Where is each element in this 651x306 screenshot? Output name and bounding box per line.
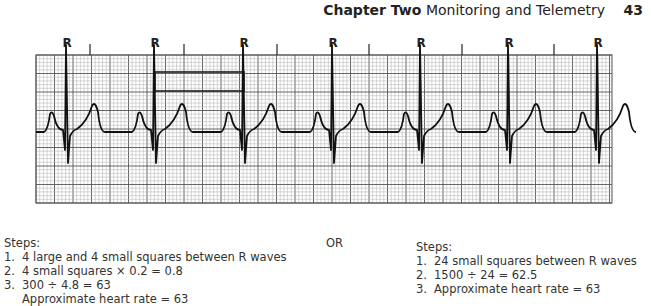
step-number: 2.	[416, 268, 427, 282]
steps-right-list: 1.24 small squares between R waves 2.150…	[416, 254, 637, 296]
steps-right-heading: Steps:	[416, 240, 637, 254]
steps-left-heading: Steps:	[4, 236, 287, 250]
step-text: 4 large and 4 small squares between R wa…	[22, 250, 287, 264]
step-number: 1.	[4, 250, 15, 264]
or-separator: OR	[326, 236, 343, 250]
r-wave-label: R	[416, 36, 425, 50]
step-item: 3.Approximate heart rate = 63	[416, 282, 637, 296]
step-number: 1.	[416, 254, 427, 268]
step-number: 3.	[4, 278, 15, 292]
r-wave-label: R	[593, 36, 602, 50]
step-number: 3.	[416, 282, 427, 296]
step-number: 2.	[4, 264, 15, 278]
step-text: 1500 ÷ 24 = 62.5	[434, 268, 537, 282]
r-wave-label: R	[62, 36, 71, 50]
step-text: 4 small squares × 0.2 = 0.8	[22, 264, 183, 278]
r-wave-label: R	[328, 36, 337, 50]
r-wave-label: R	[150, 36, 159, 50]
steps-right: Steps: 1.24 small squares between R wave…	[416, 240, 637, 296]
ecg-trace	[36, 45, 636, 163]
step-text: 24 small squares between R waves	[434, 254, 637, 268]
step-item: 3.300 ÷ 4.8 = 63	[4, 278, 287, 292]
steps-left: Steps: 1.4 large and 4 small squares bet…	[4, 236, 287, 306]
step-item: 1.24 small squares between R waves	[416, 254, 637, 268]
step-item: 2.1500 ÷ 24 = 62.5	[416, 268, 637, 282]
steps-left-result: Approximate heart rate = 63	[4, 292, 287, 306]
step-text: 300 ÷ 4.8 = 63	[22, 278, 111, 292]
step-item: 1.4 large and 4 small squares between R …	[4, 250, 287, 264]
steps-left-list: 1.4 large and 4 small squares between R …	[4, 250, 287, 292]
r-wave-label: R	[504, 36, 513, 50]
step-item: 2.4 small squares × 0.2 = 0.8	[4, 264, 287, 278]
ecg-strip-figure: RRRRRRR	[0, 0, 651, 230]
step-text: Approximate heart rate = 63	[434, 282, 600, 296]
r-wave-label: R	[239, 36, 248, 50]
